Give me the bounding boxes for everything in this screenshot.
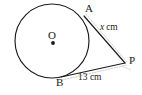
length-unit-cm-a: cm <box>106 22 118 32</box>
length-label-tangent-b: 13 cm <box>78 73 101 83</box>
centre-label-o: O <box>48 30 56 41</box>
point-label-a: A <box>85 3 93 14</box>
geometry-figure: A B P O x cm 13 cm <box>0 0 142 95</box>
length-variable-x: x <box>100 22 104 32</box>
figure-canvas <box>0 0 142 95</box>
length-label-tangent-a: x cm <box>100 23 118 33</box>
point-label-b: B <box>56 77 63 88</box>
circle-outline <box>15 4 89 78</box>
guide-line-p-tail <box>122 66 131 70</box>
point-label-p: P <box>129 55 135 66</box>
centre-point-dot <box>51 41 55 45</box>
construction-guides <box>62 14 131 80</box>
